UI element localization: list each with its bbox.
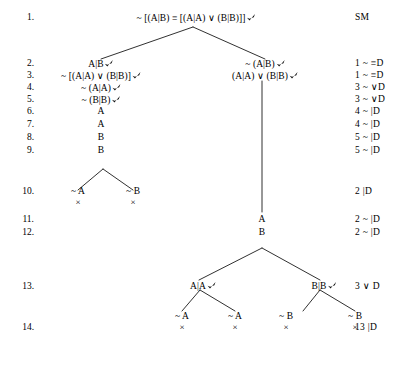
justification-line-8: 5 ~ |D: [355, 132, 380, 143]
justification-line-11: 2 ~ |D: [355, 214, 380, 225]
justification-line-13: 3 ∨ D: [355, 281, 380, 292]
justification-line-5: 3 ~ ∨D: [355, 94, 385, 105]
justification-line-7: 4 ~ |D: [355, 119, 380, 130]
justification-line-4: 3 ~ ∨D: [355, 82, 385, 93]
justification-line-6: 4 ~ |D: [355, 106, 380, 117]
justification-line-10: 2 |D: [355, 186, 372, 197]
justification-line-12: 2 ~ |D: [355, 227, 380, 238]
justification-line-14: 13 |D: [355, 322, 377, 333]
justification-line-3: 1 ~ ≡D: [355, 70, 384, 81]
justification-line-9: 5 ~ |D: [355, 145, 380, 156]
justification-line-2: 1 ~ ≡D: [355, 58, 384, 69]
justification-column: SM 1 ~ ≡D 1 ~ ≡D 3 ~ ∨D 3 ~ ∨D 4 ~ |D 4 …: [0, 0, 402, 376]
justification-line-1: SM: [355, 12, 369, 23]
